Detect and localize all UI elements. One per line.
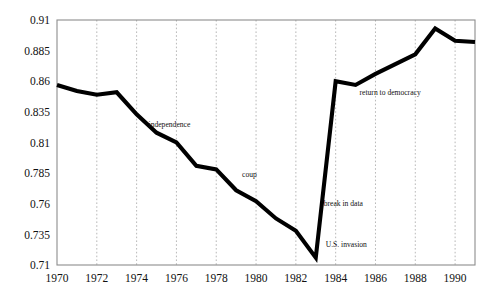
annotation-label: U.S. invasion: [326, 240, 367, 249]
annotation-label: coup: [242, 170, 257, 179]
y-tick-label: 0.785: [24, 167, 50, 179]
x-tick-label: 1982: [284, 272, 307, 284]
annotation-label: return to democracy: [360, 88, 421, 97]
x-tick-label: 1990: [444, 272, 467, 284]
y-tick-label: 0.76: [30, 198, 50, 210]
y-tick-label: 0.71: [30, 259, 50, 271]
y-tick-label: 0.86: [30, 75, 50, 87]
y-tick-label: 0.885: [24, 45, 50, 57]
y-tick-label: 0.735: [24, 229, 50, 241]
x-tick-label: 1970: [46, 272, 69, 284]
x-tick-label: 1972: [85, 272, 108, 284]
x-tick-label: 1988: [404, 272, 427, 284]
chart-figure: 0.710.7350.760.7850.810.8350.860.8850.91…: [0, 0, 495, 301]
x-tick-label: 1984: [324, 272, 347, 284]
x-tick-label: 1986: [364, 272, 387, 284]
y-tick-label: 0.81: [30, 137, 50, 149]
annotation-label: break in data: [324, 199, 364, 208]
x-tick-label: 1980: [245, 272, 268, 284]
line-chart: 0.710.7350.760.7850.810.8350.860.8850.91…: [0, 0, 495, 301]
x-tick-label: 1976: [165, 272, 188, 284]
x-tick-label: 1974: [125, 272, 148, 284]
annotation-label: independence: [149, 120, 191, 129]
y-tick-label: 0.835: [24, 106, 50, 118]
x-tick-label: 1978: [205, 272, 228, 284]
y-tick-label: 0.91: [30, 14, 50, 26]
